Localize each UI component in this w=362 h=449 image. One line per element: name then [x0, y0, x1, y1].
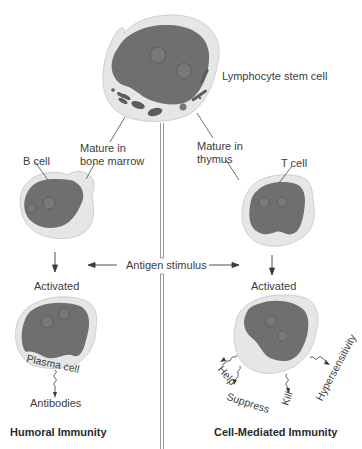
activated-t-cell-nucleolus [278, 331, 289, 342]
bone-marrow-label-line2: bone marrow [80, 155, 144, 168]
leader-line-bone-marrow [110, 117, 125, 142]
arrow-down-icon [270, 268, 275, 275]
humoral-immunity-title: Humoral Immunity [10, 426, 107, 438]
bone-marrow-label: Mature in bone marrow [80, 142, 144, 168]
center-divider [161, 123, 164, 449]
activated-t-cell-nucleolus [266, 316, 277, 327]
b-cell-nucleolus [43, 197, 55, 209]
t-cell [226, 160, 314, 246]
thymus-label: Mature in thymus [197, 140, 243, 166]
arrow-right-icon [232, 263, 239, 268]
antibodies-label: Antibodies [30, 397, 81, 409]
plasma-cell-nucleolus [41, 316, 53, 328]
t-cell-label: T cell [281, 157, 307, 169]
thymus-label-line1: Mature in [197, 140, 243, 153]
plasma-cell-nucleus [22, 303, 89, 359]
b-cell-label: B cell [23, 155, 50, 167]
stem-cell [103, 15, 219, 122]
plasma-cell [16, 297, 97, 398]
cell-mediated-immunity-title: Cell-Mediated Immunity [214, 426, 337, 438]
arrow-down-icon [53, 265, 58, 272]
arrow-left-icon [88, 263, 95, 268]
thymus-label-line2: thymus [197, 153, 243, 166]
leader-line-thymus [197, 113, 213, 138]
wavy-arrow-antibodies [54, 370, 57, 394]
stem-cell-label: Lymphocyte stem cell [222, 70, 327, 82]
t-activated-label: Activated [251, 280, 296, 292]
plasma-cell-nucleolus [59, 309, 70, 320]
stem-cell-nucleolus [177, 64, 192, 79]
wavy-arrow-hypersensitivity [310, 357, 326, 362]
b-cell [20, 162, 95, 239]
b-activated-label: Activated [34, 280, 79, 292]
stem-cell-nucleolus [150, 47, 166, 63]
lymphocyte-diagram [0, 0, 362, 449]
t-cell-nucleolus [277, 197, 287, 207]
bone-marrow-label-line1: Mature in [80, 142, 144, 155]
arrow-icon [220, 357, 226, 362]
antigen-stimulus-label: Antigen stimulus [125, 259, 208, 271]
t-cell-nucleolus [259, 198, 270, 209]
b-cell-nucleolus [27, 204, 36, 213]
